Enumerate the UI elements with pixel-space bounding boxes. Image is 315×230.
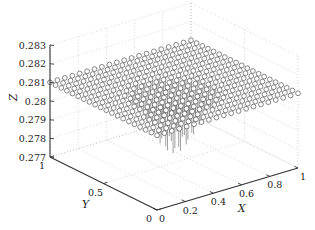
data-marker — [169, 111, 174, 116]
data-marker — [225, 103, 230, 108]
floor-grid-x — [135, 132, 242, 185]
data-marker — [107, 80, 112, 85]
data-marker — [271, 85, 276, 90]
data-marker — [152, 102, 157, 107]
data-marker — [193, 81, 198, 86]
data-marker — [93, 102, 98, 107]
data-marker — [104, 108, 109, 113]
data-marker — [193, 99, 198, 104]
data-marker — [183, 53, 188, 58]
data-marker — [209, 54, 214, 59]
data-marker — [161, 60, 166, 65]
plot-canvas: 0.2770.2780.2790.280.2810.2820.28300.510… — [0, 0, 315, 230]
data-marker — [184, 89, 189, 94]
data-marker — [232, 101, 237, 106]
data-marker — [122, 58, 127, 63]
data-marker — [114, 60, 119, 65]
data-marker — [171, 124, 176, 129]
data-marker — [98, 87, 103, 92]
data-marker — [224, 68, 229, 73]
data-marker — [76, 94, 81, 99]
data-marker — [145, 87, 150, 92]
data-marker — [170, 52, 175, 57]
data-marker — [113, 101, 118, 106]
data-marker — [157, 52, 162, 57]
data-marker — [273, 98, 278, 103]
data-marker — [267, 77, 272, 82]
data-marker — [167, 62, 172, 67]
data-marker — [227, 98, 232, 103]
data-marker — [245, 66, 250, 71]
data-marker — [164, 108, 169, 113]
x-tick-label: 0.8 — [267, 179, 282, 190]
data-marker — [128, 78, 133, 83]
data-marker — [171, 88, 176, 93]
data-marker — [201, 115, 206, 120]
data-marker — [199, 84, 204, 89]
data-marker — [100, 82, 105, 87]
data-marker — [202, 92, 207, 97]
data-marker — [159, 65, 164, 70]
data-marker — [136, 112, 141, 117]
data-marker — [198, 66, 203, 71]
data-marker — [204, 87, 209, 92]
data-marker — [191, 86, 196, 91]
data-marker — [87, 82, 92, 87]
data-marker — [139, 84, 144, 89]
z-tick — [50, 101, 54, 102]
data-marker — [184, 106, 189, 111]
data-marker — [211, 67, 216, 72]
data-marker — [105, 67, 110, 72]
data-marker — [96, 75, 101, 80]
x-tick — [238, 183, 242, 185]
data-marker — [91, 90, 96, 95]
data-marker — [126, 119, 131, 124]
data-marker — [107, 62, 112, 67]
data-marker — [166, 45, 171, 50]
data-marker — [160, 100, 165, 105]
data-marker — [167, 98, 172, 103]
data-marker — [180, 63, 185, 68]
data-marker — [132, 122, 137, 127]
data-marker — [226, 63, 231, 68]
data-marker — [187, 61, 192, 66]
data-marker — [143, 127, 148, 132]
data-marker — [281, 95, 286, 100]
x-tick — [182, 200, 186, 202]
data-marker — [159, 47, 164, 52]
data-marker — [290, 88, 295, 93]
data-marker — [221, 95, 226, 100]
data-marker — [244, 106, 249, 111]
data-marker — [180, 81, 185, 86]
data-marker — [129, 56, 134, 61]
data-marker — [65, 88, 70, 93]
stem3-plot: 0.2770.2780.2790.280.2810.2820.28300.510… — [0, 0, 315, 230]
data-marker — [229, 93, 234, 98]
data-marker — [94, 80, 99, 85]
data-marker — [262, 92, 267, 97]
data-marker — [241, 76, 246, 81]
data-marker — [117, 108, 122, 113]
data-marker — [213, 62, 218, 67]
data-marker — [70, 73, 75, 78]
z-tick — [50, 82, 54, 83]
data-marker — [194, 117, 199, 122]
data-marker — [173, 119, 178, 124]
data-marker — [162, 95, 167, 100]
data-marker — [147, 100, 152, 105]
data-marker — [177, 126, 182, 131]
data-marker — [162, 131, 167, 136]
data-marker — [83, 74, 88, 79]
data-marker — [143, 110, 148, 115]
data-marker — [157, 70, 162, 75]
data-marker — [239, 63, 244, 68]
data-marker — [100, 65, 105, 70]
data-marker — [186, 101, 191, 106]
data-marker — [208, 59, 213, 64]
data-marker — [208, 77, 213, 82]
data-marker — [191, 69, 196, 74]
data-marker — [162, 113, 167, 118]
data-marker — [247, 79, 252, 84]
data-marker — [174, 78, 179, 83]
data-marker — [163, 72, 168, 77]
